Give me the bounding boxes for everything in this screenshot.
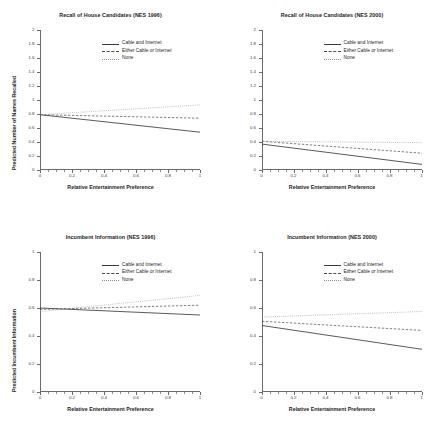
y-axis-tick-label: 0.8: [28, 277, 34, 281]
x-axis-minor-tick: [286, 170, 287, 172]
x-axis-minor-tick: [382, 392, 383, 394]
legend-item: Either Cable or Internet: [102, 48, 172, 56]
legend-item: Cable and Internet: [324, 40, 394, 48]
legend-line-solid-icon: [102, 41, 119, 47]
y-axis-tick-label: 1.2: [28, 84, 34, 88]
x-axis-tick: 0.6: [358, 170, 359, 173]
legend-item: Either Cable or Internet: [102, 269, 172, 277]
x-axis-minor-tick: [112, 170, 113, 172]
x-axis-tick: 1: [422, 392, 423, 395]
y-axis-tick-label: 0.6: [28, 305, 34, 309]
chart-panel-bottom-left: Incumbent Information (NES 1996)00.20.40…: [0, 222, 221, 443]
x-axis-minor-tick: [350, 170, 351, 172]
plot-area: 00.20.40.60.811.21.41.61.8200.20.40.60.8…: [40, 30, 200, 170]
x-axis-minor-tick: [96, 170, 97, 172]
x-axis-tick-label: 0.8: [165, 396, 171, 400]
x-axis-minor-tick: [374, 170, 375, 172]
legend-line-dotted-icon: [102, 277, 119, 283]
x-axis-tick: 0.2: [294, 392, 295, 395]
x-axis-minor-tick: [366, 170, 367, 172]
y-axis-tick-label: 0.8: [250, 112, 256, 116]
legend-line-dashed-icon: [102, 48, 119, 54]
x-axis-minor-tick: [160, 392, 161, 394]
x-axis-minor-tick: [152, 170, 153, 172]
x-axis-minor-tick: [334, 170, 335, 172]
x-axis-tick: 0.4: [104, 392, 105, 395]
y-axis-tick-label: 0.2: [250, 361, 256, 365]
x-axis-minor-tick: [318, 170, 319, 172]
y-axis-tick-label: 0.4: [28, 333, 34, 337]
x-axis-tick: 0.8: [168, 392, 169, 395]
y-axis-title: Predicted Number of Names Recalled: [11, 76, 17, 170]
legend-item: Either Cable or Internet: [324, 48, 394, 56]
x-axis-minor-tick: [310, 170, 311, 172]
legend-item-label: Cable and Internet: [122, 263, 161, 268]
x-axis-minor-tick: [88, 170, 89, 172]
x-axis-minor-tick: [342, 392, 343, 394]
y-axis-tick-label: 0: [254, 389, 256, 393]
y-axis-tick-label: 0.4: [28, 140, 34, 144]
y-axis-tick-label: 0.8: [28, 112, 34, 116]
y-axis-tick-label: 0.8: [250, 277, 256, 281]
x-axis-minor-tick: [128, 392, 129, 394]
legend-line-dashed-icon: [324, 270, 341, 276]
y-axis-tick-label: 1.8: [28, 42, 34, 46]
y-axis-tick-label: 1: [32, 249, 34, 253]
legend-line-dotted-icon: [324, 277, 341, 283]
x-axis-minor-tick: [48, 392, 49, 394]
x-axis-tick-label: 1: [199, 174, 201, 178]
legend-item-label: Either Cable or Internet: [344, 49, 394, 54]
x-axis-minor-tick: [152, 392, 153, 394]
legend-line-dotted-icon: [324, 56, 341, 62]
x-axis-tick: 0: [40, 392, 41, 395]
x-axis-tick-label: 0.6: [133, 174, 139, 178]
x-axis-minor-tick: [88, 392, 89, 394]
x-axis-minor-tick: [278, 392, 279, 394]
legend-item: Either Cable or Internet: [324, 269, 394, 277]
y-axis-title: Predicted Incumbent Information: [11, 309, 17, 392]
legend-item-label: Cable and Internet: [344, 263, 383, 268]
x-axis-tick-label: 0.2: [290, 396, 296, 400]
legend-item: Cable and Internet: [324, 262, 394, 270]
x-axis-minor-tick: [56, 392, 57, 394]
legend-item: None: [102, 55, 172, 63]
x-axis-minor-tick: [382, 170, 383, 172]
x-axis-minor-tick: [334, 392, 335, 394]
x-axis-tick: 1: [422, 170, 423, 173]
x-axis-minor-tick: [414, 392, 415, 394]
x-axis-minor-tick: [302, 170, 303, 172]
x-axis-tick: 0.2: [294, 170, 295, 173]
x-axis-minor-tick: [96, 392, 97, 394]
x-axis-tick: 0.6: [358, 392, 359, 395]
y-axis-tick-label: 1.8: [250, 42, 256, 46]
y-axis-tick-label: 0.2: [250, 154, 256, 158]
y-axis-tick-label: 1: [254, 98, 256, 102]
panel-title: Recall of House Candidates (NES 2000): [222, 12, 443, 18]
y-axis-tick-label: 1: [32, 98, 34, 102]
series-line: [262, 141, 422, 142]
x-axis-tick: 1: [200, 392, 201, 395]
x-axis-minor-tick: [176, 170, 177, 172]
panel-title: Recall of House Candidates (NES 1996): [0, 12, 221, 18]
x-axis-minor-tick: [398, 170, 399, 172]
y-axis-tick-label: 0.2: [28, 154, 34, 158]
x-axis-minor-tick: [366, 392, 367, 394]
y-axis-tick-label: 1.4: [28, 70, 34, 74]
x-axis-tick-label: 0.2: [69, 396, 75, 400]
chart-panel-top-right: Recall of House Candidates (NES 2000)00.…: [222, 0, 443, 221]
x-axis-minor-tick: [406, 392, 407, 394]
x-axis-tick: 0.8: [390, 170, 391, 173]
legend-item: Cable and Internet: [102, 40, 172, 48]
legend-item-label: None: [344, 278, 355, 283]
x-axis-tick: 0.8: [390, 392, 391, 395]
legend-line-solid-icon: [324, 41, 341, 47]
x-axis-tick-label: 0.2: [290, 174, 296, 178]
x-axis-tick: 0: [262, 170, 263, 173]
x-axis-minor-tick: [120, 170, 121, 172]
x-axis-tick-label: 0.6: [354, 174, 360, 178]
panel-title: Incumbent Information (NES 2000): [222, 234, 443, 240]
x-axis-tick-label: 0.4: [101, 174, 107, 178]
x-axis-minor-tick: [80, 392, 81, 394]
chart-panel-top-left: Recall of House Candidates (NES 1996)00.…: [0, 0, 221, 221]
x-axis-minor-tick: [184, 392, 185, 394]
